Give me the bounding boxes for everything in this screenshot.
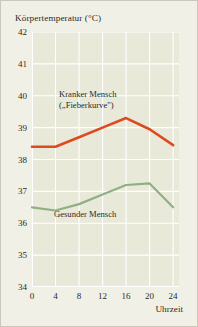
y-axis-tick-35: 35 bbox=[1, 250, 27, 260]
figure-panel: Körpertemperatur (°C) 343536373839404142… bbox=[0, 0, 198, 327]
annotation-sick-line2: („Fieberkurve") bbox=[59, 100, 117, 111]
series-line-sick bbox=[32, 118, 173, 147]
annotation-sick-person: Kranker Mensch („Fieberkurve") bbox=[59, 89, 117, 111]
y-axis-tick-38: 38 bbox=[1, 155, 27, 165]
y-axis-tick-42: 42 bbox=[1, 27, 27, 37]
y-axis-tick-37: 37 bbox=[1, 186, 27, 196]
y-axis-tick-39: 39 bbox=[1, 123, 27, 133]
x-axis-label: Uhrzeit bbox=[155, 304, 183, 314]
chart-title: Körpertemperatur (°C) bbox=[15, 13, 101, 23]
x-axis-tick-12: 12 bbox=[98, 291, 107, 301]
annotation-sick-line1: Kranker Mensch bbox=[59, 89, 117, 100]
y-axis-tick-34: 34 bbox=[1, 282, 27, 292]
y-axis-tick-40: 40 bbox=[1, 91, 27, 101]
x-axis-tick-8: 8 bbox=[77, 291, 82, 301]
series-line-healthy bbox=[32, 183, 173, 210]
x-axis-tick-20: 20 bbox=[145, 291, 154, 301]
x-axis-tick-16: 16 bbox=[122, 291, 131, 301]
annotation-healthy-line1: Gesunder Mensch bbox=[54, 209, 116, 220]
y-axis-tick-36: 36 bbox=[1, 218, 27, 228]
y-axis-tick-41: 41 bbox=[1, 59, 27, 69]
x-axis-tick-0: 0 bbox=[30, 291, 35, 301]
plot-area bbox=[32, 32, 179, 287]
x-axis-tick-24: 24 bbox=[169, 291, 178, 301]
x-axis-tick-4: 4 bbox=[53, 291, 58, 301]
annotation-healthy-person: Gesunder Mensch bbox=[54, 209, 116, 220]
series-lines bbox=[32, 32, 179, 287]
